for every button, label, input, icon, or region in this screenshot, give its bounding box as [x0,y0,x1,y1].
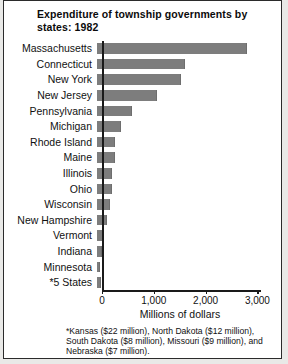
bar [97,277,101,288]
category-label: Wisconsin [4,199,97,210]
x-tick-label: 0 [99,295,105,306]
category-label: *5 States [4,277,97,288]
bar [97,137,115,148]
bar-track [97,119,283,135]
bar-row: New Hampshire [4,213,283,229]
category-label: Michigan [4,121,97,132]
bar-row: Massachusetts [4,41,283,57]
bar-track [97,166,283,182]
category-label: Connecticut [4,59,97,70]
bar-row: Ohio [4,181,283,197]
bar-row: Maine [4,150,283,166]
bar-track [97,244,283,260]
category-label: Rhode Island [4,137,97,148]
bar-row: Minnesota [4,259,283,275]
x-tick-label: 3,000 [245,295,270,306]
bar-track [97,228,283,244]
bar-track [97,41,283,57]
bar [97,121,121,132]
bar-row: Wisconsin [4,197,283,213]
bar-row: Michigan [4,119,283,135]
category-label: New York [4,74,97,85]
bar [97,43,247,54]
bar-row: New Jersey [4,88,283,104]
bar-row: Indiana [4,244,283,260]
bar [97,59,185,70]
x-tick [206,290,207,294]
category-label: Pennsylvania [4,106,97,117]
category-label: Indiana [4,246,97,257]
x-tick [154,290,155,294]
bar-row: Connecticut [4,57,283,73]
bar-track [97,57,283,73]
x-tick [257,290,258,294]
category-label: Ohio [4,184,97,195]
chart-title: Expenditure of township governments by s… [37,8,275,33]
category-label: New Hampshire [4,215,97,226]
bar-row: Rhode Island [4,135,283,151]
plot-area: MassachusettsConnecticutNew YorkNew Jers… [4,41,283,291]
x-axis-line [102,290,261,292]
bar-track [97,150,283,166]
bar-row: Vermont [4,228,283,244]
category-label: Massachusetts [4,43,97,54]
x-tick-label: 1,000 [141,295,166,306]
chart-figure: Expenditure of township governments by s… [3,0,282,359]
bar [97,262,100,273]
category-label: New Jersey [4,90,97,101]
chart-footnote: *Kansas ($22 million), North Dakota ($12… [66,326,274,357]
bar [97,90,157,101]
bar-row: New York [4,72,283,88]
y-axis-line [102,41,104,291]
x-tick-label: 2,000 [193,295,218,306]
bar-track [97,103,283,119]
category-label: Maine [4,152,97,163]
bar [97,168,112,179]
bar-track [97,72,283,88]
category-label: Minnesota [4,262,97,273]
x-axis-label: Millions of dollars [102,308,258,320]
bar-row: Illinois [4,166,283,182]
bar [97,152,115,163]
bar-track [97,259,283,275]
bar [97,184,112,195]
bar [97,74,181,85]
bar-track [97,275,283,291]
bar [97,199,110,210]
bar-track [97,88,283,104]
bar-track [97,197,283,213]
bar-row: *5 States [4,275,283,291]
category-label: Vermont [4,230,97,241]
bar-track [97,213,283,229]
bar-row: Pennsylvania [4,103,283,119]
bar-track [97,181,283,197]
x-tick [102,290,103,294]
bar-track [97,135,283,151]
category-label: Illinois [4,168,97,179]
